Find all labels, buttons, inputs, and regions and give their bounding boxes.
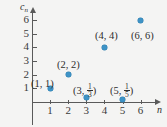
- y-axis-tick-label: 2: [17, 69, 29, 80]
- data-point-label-suffix: ): [93, 85, 97, 96]
- y-axis-tick-label: 4: [17, 41, 29, 52]
- x-axis-title: n: [157, 104, 162, 115]
- data-point[interactable]: [138, 18, 143, 23]
- data-point-label: (2, 2): [57, 59, 80, 70]
- data-point[interactable]: [66, 72, 71, 77]
- fraction-denominator: 5: [124, 90, 130, 99]
- data-point-label-prefix: (1,: [31, 78, 45, 89]
- y-axis-tick: [33, 20, 37, 21]
- data-point-label-suffix: ): [76, 59, 80, 70]
- x-axis-tick-label: 4: [97, 104, 111, 117]
- y-axis-tick: [33, 34, 37, 35]
- data-point-label-prefix: (4,: [95, 30, 109, 41]
- data-point-label: (3, 13): [73, 83, 96, 100]
- data-point-label-prefix: (5,: [110, 85, 124, 96]
- data-point-label-prefix: (3,: [73, 85, 87, 96]
- fraction-numerator: 1: [124, 83, 130, 91]
- x-axis-tick-label: 3: [79, 104, 93, 117]
- y-axis-tick-label: 1: [17, 82, 29, 93]
- y-axis-arrowhead-icon: [30, 7, 36, 13]
- data-point-label: (1, 1): [31, 78, 54, 89]
- y-axis-line: [32, 12, 33, 125]
- data-point-label: (4, 4): [95, 30, 118, 41]
- data-point-label: (6, 6): [131, 30, 154, 41]
- y-axis-tick-label: 3: [17, 55, 29, 66]
- x-axis-tick-label: 1: [43, 104, 57, 117]
- data-point-label-suffix: ): [150, 30, 154, 41]
- data-point-label-fraction: 13: [87, 83, 93, 100]
- x-axis-tick-label: 5: [116, 104, 130, 117]
- data-point[interactable]: [102, 45, 107, 50]
- data-point-label-fraction: 15: [124, 83, 130, 100]
- y-axis-tick: [33, 47, 37, 48]
- x-axis-tick-label: 6: [134, 104, 148, 117]
- data-point-label-prefix: (2,: [57, 59, 71, 70]
- data-point-label-suffix: ): [130, 85, 134, 96]
- y-axis-tick: [33, 75, 37, 76]
- data-point-label-prefix: (6,: [131, 30, 145, 41]
- y-axis-tick: [33, 61, 37, 62]
- data-point-label: (5, 15): [110, 83, 133, 100]
- data-point-label-suffix: ): [114, 30, 118, 41]
- fraction-numerator: 1: [87, 83, 93, 91]
- y-axis-tick-label: 5: [17, 28, 29, 39]
- data-point-label-suffix: ): [50, 78, 54, 89]
- scatter-plot-figure: cn n 123456123456(1, 1)(2, 2)(3, 13)(4, …: [0, 0, 167, 127]
- fraction-denominator: 3: [87, 90, 93, 99]
- y-axis-title: cn: [20, 1, 28, 14]
- y-axis-tick-label: 6: [17, 14, 29, 25]
- x-axis-tick-label: 2: [61, 104, 75, 117]
